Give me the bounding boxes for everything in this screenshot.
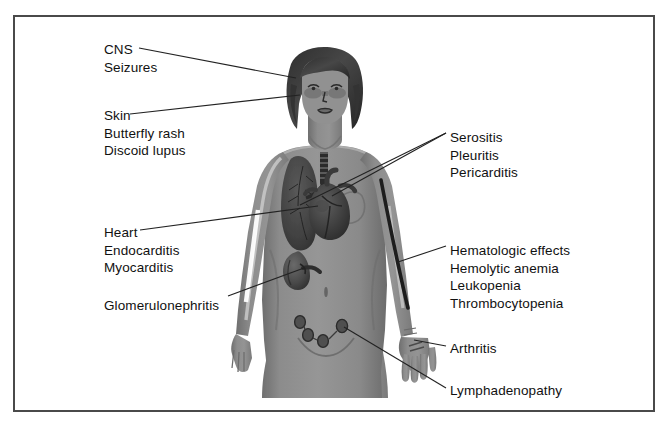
label-heart-line-2: Myocarditis [104, 259, 180, 277]
label-hematologic-line-2: Leukopenia [450, 277, 570, 295]
leader-hematologic [398, 246, 446, 262]
label-cns-line-0: CNS [104, 41, 157, 59]
label-lymphadenopathy: Lymphadenopathy [450, 382, 562, 400]
leader-cns [139, 48, 296, 78]
label-serositis-line-0: Serositis [450, 129, 518, 147]
label-heart-line-1: Endocarditis [104, 242, 180, 260]
label-cns: CNS Seizures [104, 41, 157, 76]
label-hematologic-line-1: Hemolytic anemia [450, 260, 570, 278]
label-serositis: Serositis Pleuritis Pericarditis [450, 129, 518, 182]
label-hematologic: Hematologic effects Hemolytic anemia Leu… [450, 242, 570, 312]
label-arthritis: Arthritis [450, 340, 497, 358]
anatomy-illustration [0, 0, 671, 433]
label-arthritis-line-0: Arthritis [450, 340, 497, 358]
label-skin: Skin Butterfly rash Discoid lupus [104, 107, 186, 160]
label-skin-line-2: Discoid lupus [104, 142, 186, 160]
label-hematologic-line-3: Thrombocytopenia [450, 295, 570, 313]
label-hematologic-line-0: Hematologic effects [450, 242, 570, 260]
right-hand [399, 337, 437, 383]
label-lymphadenopathy-line-0: Lymphadenopathy [450, 382, 562, 400]
label-glomerulonephritis-line-0: Glomerulonephritis [104, 297, 219, 315]
label-glomerulonephritis: Glomerulonephritis [104, 297, 219, 315]
label-heart-line-0: Heart [104, 224, 180, 242]
label-serositis-line-1: Pleuritis [450, 147, 518, 165]
label-heart: Heart Endocarditis Myocarditis [104, 224, 180, 277]
label-cns-line-1: Seizures [104, 59, 157, 77]
label-skin-line-0: Skin [104, 107, 186, 125]
diagram-page: CNS Seizures Skin Butterfly rash Discoid… [0, 0, 671, 433]
left-hand [231, 334, 252, 372]
label-serositis-line-2: Pericarditis [450, 164, 518, 182]
navel [324, 287, 328, 297]
label-skin-line-1: Butterfly rash [104, 125, 186, 143]
